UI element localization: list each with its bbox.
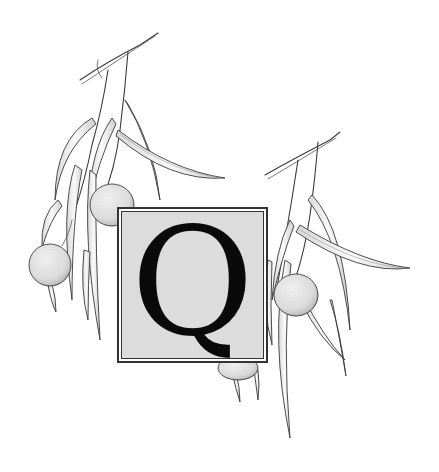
leaf (42, 200, 62, 248)
right-twig-top (265, 132, 340, 175)
left-twig-top-2 (82, 36, 155, 84)
leaf (67, 165, 82, 300)
leaf (116, 130, 225, 178)
dropcap-letter: Q (131, 211, 254, 357)
right-stem-main (295, 142, 318, 280)
leaf (83, 250, 90, 320)
dropcap-box: Q (121, 211, 264, 359)
dropcap-frame: Q (117, 207, 268, 363)
left-twig-top (80, 33, 158, 80)
right-twig-top-2 (268, 138, 336, 179)
leaf (48, 284, 56, 312)
leaf (296, 225, 410, 269)
leaf (330, 300, 346, 376)
leaf (308, 195, 350, 330)
